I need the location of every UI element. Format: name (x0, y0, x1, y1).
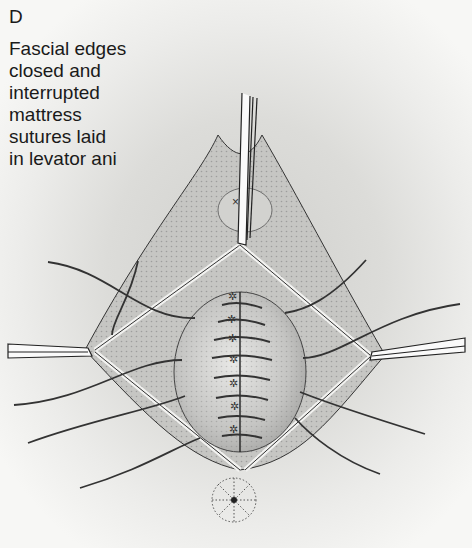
svg-text:✲: ✲ (230, 400, 239, 412)
svg-text:✲: ✲ (229, 353, 238, 365)
svg-text:✲: ✲ (229, 377, 238, 389)
svg-text:✲: ✲ (228, 290, 237, 302)
svg-text:✲: ✲ (229, 423, 238, 435)
surgical-illustration: × ✲ ✲ ✲ ✲ ✲ ✲ ✲ (0, 0, 472, 548)
svg-text:✲: ✲ (227, 313, 236, 325)
anus (212, 478, 256, 522)
svg-text:✲: ✲ (228, 332, 237, 344)
retractor-right (370, 338, 465, 360)
suture-x-mark: × (232, 195, 239, 209)
retractor-left (8, 344, 92, 358)
fascia-closure (174, 292, 306, 452)
